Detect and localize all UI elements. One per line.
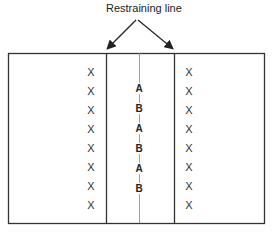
center-player-b: B bbox=[133, 183, 145, 194]
left-player-marker: X bbox=[85, 161, 97, 173]
right-player-marker: X bbox=[183, 199, 195, 211]
arrow-left-icon bbox=[108, 20, 136, 48]
center-player-a: A bbox=[133, 123, 145, 134]
right-player-marker: X bbox=[183, 161, 195, 173]
center-player-a: A bbox=[133, 163, 145, 174]
left-player-marker: X bbox=[85, 104, 97, 116]
court-diagram bbox=[0, 0, 273, 232]
left-player-marker: X bbox=[85, 123, 97, 135]
left-player-marker: X bbox=[85, 142, 97, 154]
right-player-marker: X bbox=[183, 104, 195, 116]
center-player-b: B bbox=[133, 143, 145, 154]
left-player-marker: X bbox=[85, 199, 97, 211]
right-player-marker: X bbox=[183, 85, 195, 97]
right-player-marker: X bbox=[183, 180, 195, 192]
court-outline bbox=[9, 54, 265, 224]
right-player-marker: X bbox=[183, 66, 195, 78]
right-player-marker: X bbox=[183, 142, 195, 154]
arrow-right-icon bbox=[138, 20, 172, 48]
center-player-b: B bbox=[133, 103, 145, 114]
center-player-a: A bbox=[133, 83, 145, 94]
right-player-marker: X bbox=[183, 123, 195, 135]
left-player-marker: X bbox=[85, 66, 97, 78]
left-player-marker: X bbox=[85, 180, 97, 192]
restraining-line-label: Restraining line bbox=[106, 2, 182, 14]
left-player-marker: X bbox=[85, 85, 97, 97]
